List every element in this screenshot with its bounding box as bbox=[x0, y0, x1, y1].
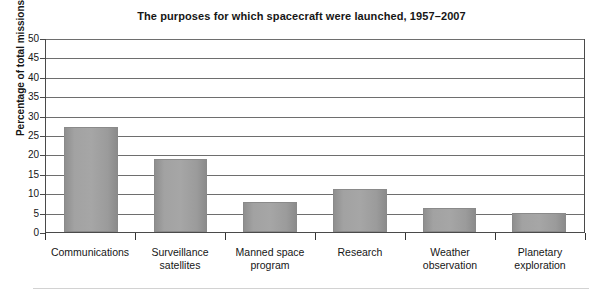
y-tick-mark bbox=[40, 136, 45, 137]
x-tick-mark bbox=[495, 233, 496, 240]
plot-area bbox=[45, 39, 585, 233]
x-axis-label: Manned spaceprogram bbox=[225, 246, 315, 272]
y-tick-mark bbox=[40, 194, 45, 195]
y-tick-mark bbox=[40, 97, 45, 98]
y-tick-mark bbox=[40, 155, 45, 156]
x-axis-label-line: satellites bbox=[136, 259, 224, 272]
x-tick-mark bbox=[585, 233, 586, 240]
x-axis-label-line: observation bbox=[406, 259, 494, 272]
x-axis-ticks bbox=[45, 233, 585, 240]
bar-chart-figure: The purposes for which spacecraft were l… bbox=[0, 0, 603, 297]
bar-slot bbox=[225, 39, 315, 232]
chart-title: The purposes for which spacecraft were l… bbox=[0, 10, 603, 22]
y-tick-mark bbox=[40, 78, 45, 79]
y-tick-mark bbox=[40, 39, 45, 40]
y-tick-label: 10 bbox=[5, 189, 39, 199]
x-axis-label: Planetaryexploration bbox=[495, 246, 585, 272]
x-axis-label-line: program bbox=[226, 259, 314, 272]
x-axis-label-line: Surveillance bbox=[136, 246, 224, 259]
y-tick-label: 5 bbox=[5, 209, 39, 219]
bar-slot bbox=[315, 39, 405, 232]
y-tick-label: 20 bbox=[5, 150, 39, 160]
x-tick-mark bbox=[315, 233, 316, 240]
y-tick-mark bbox=[40, 58, 45, 59]
y-tick-label: 40 bbox=[5, 73, 39, 83]
x-axis-labels: CommunicationsSurveillancesatellitesMann… bbox=[45, 246, 585, 272]
y-tick-label: 25 bbox=[5, 131, 39, 141]
x-axis-label: Communications bbox=[45, 246, 135, 272]
bar[interactable] bbox=[512, 213, 566, 232]
bars-layer bbox=[46, 39, 584, 232]
x-axis-label-line: Research bbox=[316, 246, 404, 259]
x-axis-label: Weatherobservation bbox=[405, 246, 495, 272]
x-axis-label: Research bbox=[315, 246, 405, 272]
bar-slot bbox=[136, 39, 226, 232]
bar[interactable] bbox=[154, 159, 208, 232]
y-tick-label: 50 bbox=[5, 34, 39, 44]
x-tick-mark bbox=[225, 233, 226, 240]
y-tick-mark bbox=[40, 175, 45, 176]
y-tick-label: 0 bbox=[5, 228, 39, 238]
bar[interactable] bbox=[333, 189, 387, 232]
y-tick-mark bbox=[40, 214, 45, 215]
bar-slot bbox=[405, 39, 495, 232]
x-tick-mark bbox=[135, 233, 136, 240]
bottom-divider bbox=[33, 288, 589, 289]
y-tick-label: 35 bbox=[5, 92, 39, 102]
y-tick-label: 30 bbox=[5, 112, 39, 122]
x-axis-label-line: Planetary bbox=[496, 246, 584, 259]
bar[interactable] bbox=[243, 202, 297, 232]
x-axis-label-line: Weather bbox=[406, 246, 494, 259]
x-axis-label-line: Communications bbox=[46, 246, 134, 259]
y-tick-label: 15 bbox=[5, 170, 39, 180]
bar[interactable] bbox=[64, 127, 118, 232]
y-tick-mark bbox=[40, 117, 45, 118]
bar[interactable] bbox=[423, 208, 477, 232]
x-axis-label-line: exploration bbox=[496, 259, 584, 272]
x-tick-mark bbox=[405, 233, 406, 240]
y-tick-label: 45 bbox=[5, 53, 39, 63]
x-tick-mark bbox=[45, 233, 46, 240]
x-axis-label-line: Manned space bbox=[226, 246, 314, 259]
bar-slot bbox=[46, 39, 136, 232]
x-axis-label: Surveillancesatellites bbox=[135, 246, 225, 272]
bar-slot bbox=[494, 39, 584, 232]
